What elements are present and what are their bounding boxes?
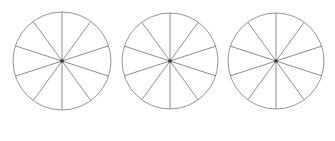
sector-divider-7 (276, 61, 304, 100)
sector-divider-2 (33, 21, 62, 61)
sector-divider-10 (276, 22, 304, 61)
center-point-marker (61, 60, 64, 63)
sector-divider-4 (230, 61, 276, 76)
circle-diagram-1 (7, 6, 117, 116)
sector-divider-3 (230, 46, 276, 61)
sector-divider-2 (142, 22, 170, 61)
sector-divider-4 (15, 61, 62, 76)
sector-divider-8 (276, 61, 322, 76)
sector-divider-2 (248, 22, 276, 61)
circle-svg-3 (222, 7, 330, 115)
sector-divider-7 (62, 61, 91, 101)
sector-divider-9 (62, 46, 109, 61)
sector-divider-10 (170, 22, 198, 61)
circle-svg-1 (7, 6, 117, 116)
sector-divider-8 (170, 61, 216, 76)
figure-canvas (0, 0, 335, 141)
sector-divider-3 (124, 46, 170, 61)
sector-divider-4 (124, 61, 170, 76)
sector-divider-7 (170, 61, 198, 100)
sector-divider-8 (62, 61, 109, 76)
sector-divider-5 (248, 61, 276, 100)
circle-svg-2 (116, 7, 224, 115)
sector-divider-10 (62, 21, 91, 61)
sector-divider-9 (276, 46, 322, 61)
sector-divider-5 (142, 61, 170, 100)
sector-divider-5 (33, 61, 62, 101)
sector-divider-9 (170, 46, 216, 61)
circle-diagram-2 (116, 7, 224, 115)
sector-divider-3 (15, 46, 62, 61)
center-point-marker (275, 60, 278, 63)
center-point-marker (169, 60, 172, 63)
circle-diagram-3 (222, 7, 330, 115)
